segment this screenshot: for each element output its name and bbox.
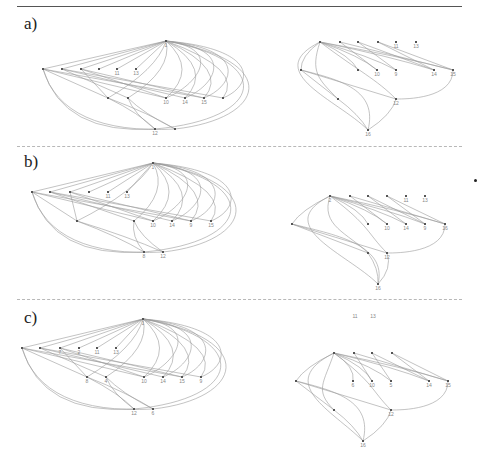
graph-edge xyxy=(153,163,231,221)
node-label: 12 xyxy=(393,100,399,106)
graph-edge xyxy=(77,221,144,252)
node-label: 10 xyxy=(163,99,169,105)
graph-node xyxy=(319,41,321,43)
node-label: 12 xyxy=(152,130,158,136)
node-label: 9 xyxy=(200,378,203,384)
graph-edge xyxy=(43,69,155,130)
graph-edge xyxy=(70,192,153,221)
graph-edge xyxy=(62,41,166,69)
node-label: 2 xyxy=(329,197,332,203)
node-label: 4 xyxy=(105,378,108,384)
graph-edge xyxy=(134,221,163,252)
node-label: 11 xyxy=(393,43,398,49)
node-label: 13 xyxy=(124,193,130,199)
node-label: 14 xyxy=(403,225,409,231)
node-label: 12 xyxy=(388,411,394,417)
graph-figure: 1111310141512111310914151216111131014915… xyxy=(0,0,478,466)
graph-node xyxy=(21,347,23,349)
graph-edge xyxy=(301,70,370,130)
graph-edge xyxy=(153,163,183,221)
node-label: 14 xyxy=(169,222,175,228)
node-label: 9 xyxy=(190,222,193,228)
graph-edge xyxy=(144,163,231,252)
graph-edge xyxy=(328,196,368,253)
graph-edge xyxy=(153,163,236,252)
graph-edge xyxy=(350,196,387,224)
graph-edge xyxy=(50,163,153,192)
graph-edge xyxy=(166,41,211,98)
graph-node xyxy=(357,41,359,43)
graph-node xyxy=(42,68,44,70)
graph-edge xyxy=(292,224,379,284)
graph-edge xyxy=(32,192,163,253)
graph-edge xyxy=(79,319,143,348)
graph-node xyxy=(353,352,355,354)
graph-node xyxy=(339,41,341,43)
node-label: 6 xyxy=(152,410,155,416)
graph-edge xyxy=(308,353,363,441)
node-label: 8 xyxy=(86,378,89,384)
graph-edge xyxy=(322,353,334,410)
graph-node xyxy=(69,191,71,193)
graph-node xyxy=(337,98,339,100)
graph-edge xyxy=(50,192,134,221)
graph-edge xyxy=(143,319,221,377)
graph-node xyxy=(174,128,176,130)
graph-node xyxy=(333,409,335,411)
graph-edge xyxy=(143,319,189,377)
node-label: 13 xyxy=(370,313,376,319)
node-label: 8 xyxy=(143,253,146,259)
graph-edge xyxy=(22,319,143,348)
node-label: 13 xyxy=(422,197,428,203)
node-label: 10 xyxy=(150,222,156,228)
graph-node xyxy=(349,195,351,197)
graph-edge xyxy=(354,353,372,381)
graph-edge xyxy=(32,163,153,192)
graph-node xyxy=(107,97,109,99)
graph-edge xyxy=(292,224,368,253)
graph-edge xyxy=(378,42,434,70)
node-label: 12 xyxy=(160,253,166,259)
graph-node xyxy=(133,220,135,222)
graph-node xyxy=(39,347,41,349)
node-label: 10 xyxy=(369,382,375,388)
graph-edge xyxy=(334,410,363,441)
graph-node xyxy=(371,352,373,354)
node-label: 2 xyxy=(78,349,81,355)
graph-node xyxy=(222,97,224,99)
node-label: 14 xyxy=(426,382,432,388)
graph-edge xyxy=(396,70,453,99)
graph-node xyxy=(98,68,100,70)
graph-edge xyxy=(81,41,166,69)
graph-edge xyxy=(60,319,143,348)
graph-node xyxy=(391,352,393,354)
graph-edge xyxy=(89,163,153,192)
node-label: 13 xyxy=(413,43,419,49)
node-label: 16 xyxy=(442,225,448,231)
graph-edge xyxy=(296,353,334,381)
node-label: 15 xyxy=(445,382,451,388)
node-label: 5 xyxy=(390,382,393,388)
graph-node xyxy=(291,223,293,225)
graph-edge xyxy=(387,224,445,253)
graph-node xyxy=(367,252,369,254)
node-label: 11 xyxy=(105,193,110,199)
node-label: 16 xyxy=(360,442,366,448)
node-label: 13 xyxy=(113,349,119,355)
graph-edge xyxy=(70,192,191,221)
graph-node xyxy=(377,41,379,43)
graph-node xyxy=(367,195,369,197)
graph-node xyxy=(333,352,335,354)
graph-edge xyxy=(128,98,155,129)
graph-edge xyxy=(296,381,391,410)
node-label: 9 xyxy=(424,225,427,231)
graph-edge xyxy=(338,99,368,130)
graph-node xyxy=(49,191,51,193)
graph-edge xyxy=(166,41,196,98)
graph-edge xyxy=(368,99,396,130)
graph-edge xyxy=(363,410,391,441)
node-label: 16 xyxy=(375,285,381,291)
graph-edge xyxy=(133,221,144,252)
node-label: 14 xyxy=(182,99,188,105)
graph-edge xyxy=(155,41,244,129)
